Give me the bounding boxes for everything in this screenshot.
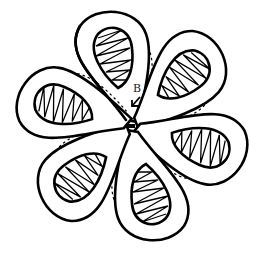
- center-crossing: [128, 124, 135, 128]
- diagram-canvas: B: [0, 0, 276, 254]
- flower-knot: [5, 12, 259, 241]
- label-b: B: [133, 82, 141, 95]
- flower-knot-diagram: B: [0, 0, 276, 254]
